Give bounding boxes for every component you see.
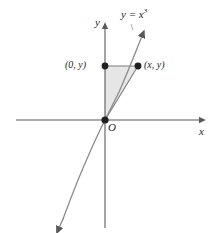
- point-on-curve-label: (x, y): [144, 60, 165, 70]
- label-leader-line: [131, 24, 133, 30]
- diagram-canvas: [0, 0, 217, 233]
- curve-equation-base: y = x: [121, 8, 144, 20]
- point-on-y-axis-label: (0, y): [65, 60, 86, 70]
- cubic-function-diagram: y = x3 y x O (0, y) (x, y): [0, 0, 217, 233]
- curve-equation-label: y = x3: [121, 9, 147, 20]
- point-on-curve-dot: [135, 63, 142, 70]
- origin-label: O: [108, 122, 116, 133]
- x-axis-label: x: [199, 126, 204, 137]
- curve-equation-exponent: 3: [144, 7, 148, 15]
- y-axis-label: y: [95, 17, 100, 28]
- curve-arrow-lower: [59, 219, 63, 228]
- point-on-y-axis-dot: [102, 63, 109, 70]
